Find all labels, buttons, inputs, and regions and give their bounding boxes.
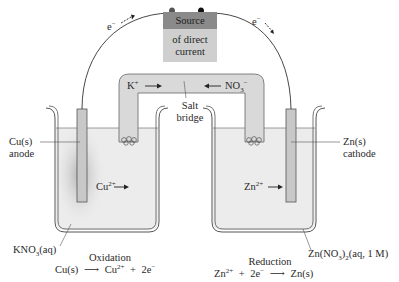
- power-source: Source of direct current: [163, 12, 217, 62]
- reduction-title: Reduction: [240, 256, 300, 268]
- salt-bridge-anion-label: NO3−: [225, 80, 248, 92]
- left-beaker: [46, 106, 168, 232]
- oxidation-title: Oxidation: [80, 252, 140, 264]
- electrolytic-cell-diagram: Source of direct current e− e− K+ NO3− S…: [0, 0, 399, 282]
- right-solution-label: Zn(NO3)2(aq, 1 M): [308, 248, 388, 260]
- cathode-label: Zn(s) cathode: [343, 136, 376, 160]
- reduction-equation: Zn2+ + 2e− ⟶ Zn(s): [214, 268, 313, 280]
- cu-ion-label: Cu2+: [96, 181, 116, 193]
- anode-label: Cu(s) anode: [9, 136, 34, 160]
- left-solution-label: KNO3(aq): [13, 244, 56, 256]
- zn-ion-label: Zn2+: [244, 181, 263, 193]
- power-source-title: Source: [163, 12, 217, 29]
- cu-electrode: [77, 109, 87, 202]
- power-source-description: of direct current: [163, 29, 217, 62]
- salt-bridge-label: Salt bridge: [170, 100, 210, 124]
- electron-label-left: e−: [107, 21, 116, 33]
- salt-bridge-cation-label: K+: [127, 80, 139, 92]
- oxidation-equation: Cu(s) ⟶ Cu2+ + 2e−: [55, 264, 155, 276]
- zn-electrode: [286, 109, 296, 202]
- electron-label-right: e−: [252, 16, 261, 28]
